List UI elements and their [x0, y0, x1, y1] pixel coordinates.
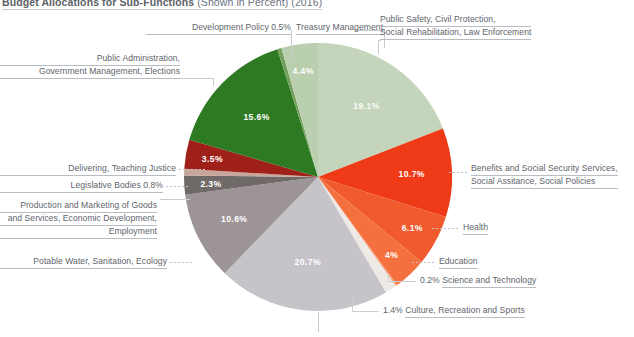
leader-science-v [388, 274, 389, 282]
callout-production-line1: Production and Marketing of Goods [0, 200, 157, 213]
leader-culture-v [352, 296, 353, 312]
callout-public-administration-line2: Government Management, Elections [0, 66, 180, 79]
callout-legislative: Legislative Bodies 0.8% [0, 180, 163, 193]
callout-public-safety: Public Safety, Civil Protection, Social … [380, 14, 531, 40]
page-title-rest: (Shown in Percent) (2016) [194, 0, 322, 8]
leader-legislative [166, 186, 190, 187]
callout-legislative-line1: Legislative Bodies 0.8% [0, 180, 163, 193]
callout-treasury-line1: Treasury Management [296, 22, 383, 35]
leader-benefits [449, 172, 469, 173]
callout-development-policy: Development Policy 0.5% [146, 22, 291, 35]
callout-benefits-line2: Social Assitance, Social Policies [471, 176, 618, 189]
callout-education-line1: Education [439, 256, 478, 269]
leader-development-policy [291, 30, 292, 60]
pie-slice-value: 19.1% [353, 101, 379, 111]
leader-science [388, 281, 416, 282]
callout-culture-line1: Culture, Recreation and Sports [405, 305, 525, 318]
callout-benefits-line1: Benefits and Social Security Services, [471, 163, 618, 176]
leader-production [160, 199, 190, 200]
pie-slice-value: 2.3% [200, 179, 221, 189]
leader-public-administration-h [180, 78, 214, 79]
callout-public-safety-line1: Public Safety, Civil Protection, [380, 14, 531, 27]
pie-slice-value: 10.7% [399, 169, 425, 179]
callout-health: Health [463, 222, 488, 235]
callout-science: 0.2% Science and Technology [420, 275, 536, 288]
callout-public-administration: Public Administration, Government Manage… [0, 53, 180, 79]
pie-slice-value: 20.7% [295, 257, 321, 267]
callout-water: Potable Water, Sanitation, Ecology [0, 256, 167, 269]
callout-health-line1: Health [463, 222, 488, 235]
callout-science-pct: 0.2% [420, 275, 440, 285]
callout-benefits: Benefits and Social Security Services, S… [471, 163, 618, 189]
pie-slice-value: 6.1% [402, 223, 423, 233]
leader-health [432, 228, 459, 229]
callout-justice-line1: Delivering, Teaching Justice [0, 163, 176, 176]
leader-justice [179, 169, 205, 170]
pie-slice-value: 10.6% [221, 214, 247, 224]
leader-education [412, 262, 435, 263]
page-title-strong: Budget Allocations for Sub-Functions [2, 0, 194, 8]
callout-science-line1: Science and Technology [442, 275, 536, 288]
callout-public-safety-line2: Social Rehabilitation, Law Enforcement [380, 27, 531, 40]
callout-production: Production and Marketing of Goods and Se… [0, 200, 157, 239]
pie-slice-value: 4.4% [293, 66, 314, 76]
pie-slice-value: 3.5% [202, 154, 223, 164]
callout-treasury: Treasury Management [296, 22, 383, 35]
callout-justice: Delivering, Teaching Justice [0, 163, 176, 176]
pie-slice-value: 15.6% [243, 112, 269, 122]
callout-water-line1: Potable Water, Sanitation, Ecology [0, 256, 167, 269]
callout-education: Education [439, 256, 478, 269]
pie-slice-value: 4% [385, 250, 398, 260]
chart-page: Budget Allocations for Sub-Functions (Sh… [0, 0, 634, 337]
callout-development-policy-line1: Development Policy 0.5% [146, 22, 291, 35]
pie-chart: 19.1%10.7%6.1%4%20.7%10.6%2.3%3.5%15.6%4… [183, 42, 453, 312]
leader-water [170, 262, 194, 263]
leader-public-safety [378, 40, 379, 54]
page-title: Budget Allocations for Sub-Functions (Sh… [2, 0, 322, 10]
callout-production-line2: and Services, Economic Development, [0, 213, 157, 226]
pie-svg: 19.1%10.7%6.1%4%20.7%10.6%2.3%3.5%15.6%4… [183, 42, 453, 312]
callout-culture-pct: 1.4% [383, 305, 403, 315]
leader-bottom-v [318, 312, 319, 332]
callout-production-line3: Employment [0, 226, 157, 239]
leader-public-administration [213, 78, 214, 86]
callout-public-administration-line1: Public Administration, [0, 53, 180, 66]
leader-culture [352, 311, 379, 312]
callout-culture: 1.4% Culture, Recreation and Sports [383, 305, 525, 318]
